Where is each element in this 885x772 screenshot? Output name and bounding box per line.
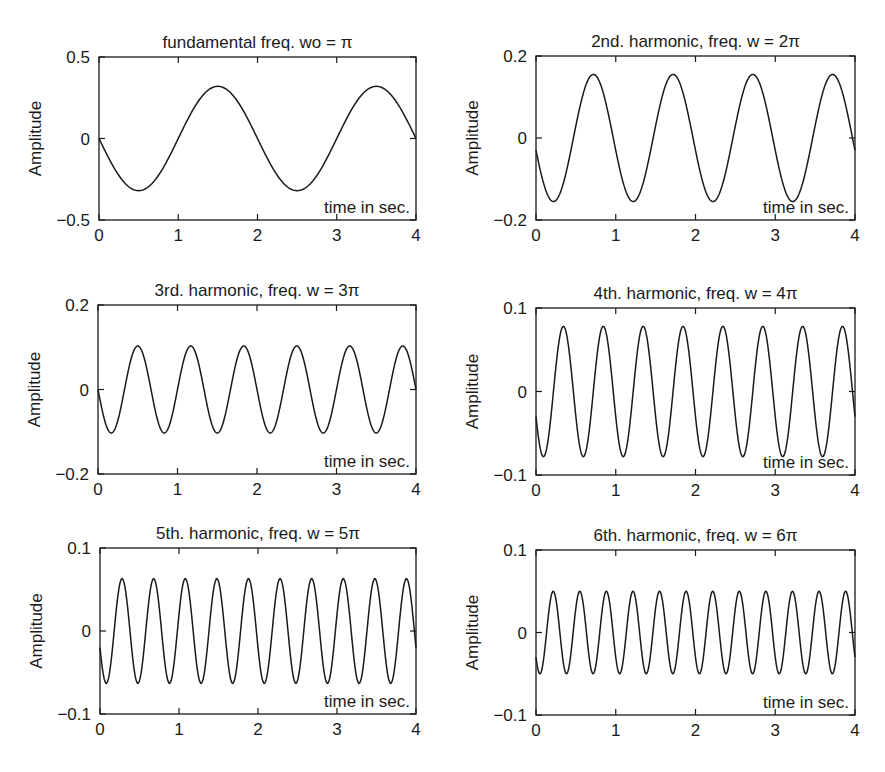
x-tick-label: 2 bbox=[253, 226, 262, 245]
y-tick-label: 0 bbox=[82, 622, 91, 641]
x-axis-label: time in sec. bbox=[324, 198, 410, 217]
x-tick-label: 4 bbox=[850, 226, 859, 245]
subplot-3: 3rd. harmonic, freq. w = 3πAmplitude0123… bbox=[25, 281, 421, 499]
x-tick-label: 0 bbox=[94, 226, 103, 245]
x-axis-label: time in sec. bbox=[763, 693, 849, 712]
axes-box bbox=[536, 550, 855, 715]
y-tick-label: 0.2 bbox=[65, 296, 89, 315]
figure-canvas: fundamental freq. wo = πAmplitude01234−0… bbox=[0, 0, 885, 772]
x-tick-label: 3 bbox=[771, 721, 780, 740]
subplot-6: 6th. harmonic, freq. w = 6πAmplitude0123… bbox=[463, 526, 860, 740]
subplot-1: fundamental freq. wo = πAmplitude01234−0… bbox=[26, 33, 421, 245]
y-tick-label: −0.5 bbox=[56, 211, 90, 230]
axes-box bbox=[100, 548, 416, 714]
y-tick-label: 0.1 bbox=[503, 299, 527, 318]
x-tick-label: 3 bbox=[332, 226, 341, 245]
x-tick-label: 4 bbox=[411, 720, 420, 739]
y-axis-label: Amplitude bbox=[27, 593, 46, 669]
subplot-title: fundamental freq. wo = π bbox=[163, 33, 353, 52]
x-tick-label: 4 bbox=[411, 226, 420, 245]
y-tick-label: 0.2 bbox=[503, 47, 527, 66]
y-axis-label: Amplitude bbox=[463, 595, 482, 671]
axes-box bbox=[536, 56, 855, 220]
x-tick-label: 0 bbox=[95, 720, 104, 739]
x-tick-label: 0 bbox=[531, 481, 540, 500]
x-tick-label: 4 bbox=[850, 481, 859, 500]
x-axis-label: time in sec. bbox=[763, 198, 849, 217]
x-tick-label: 3 bbox=[771, 481, 780, 500]
x-tick-label: 4 bbox=[411, 480, 420, 499]
harmonics-figure: fundamental freq. wo = πAmplitude01234−0… bbox=[0, 0, 885, 772]
waveform-line bbox=[100, 579, 416, 684]
x-tick-label: 3 bbox=[332, 480, 341, 499]
subplot-5: 5th. harmonic, freq. w = 5πAmplitude0123… bbox=[27, 524, 421, 739]
y-axis-label: Amplitude bbox=[26, 101, 45, 177]
subplot-title: 5th. harmonic, freq. w = 5π bbox=[156, 524, 360, 543]
subplot-title: 6th. harmonic, freq. w = 6π bbox=[593, 526, 797, 545]
x-tick-label: 3 bbox=[332, 720, 341, 739]
y-tick-label: 0.1 bbox=[67, 539, 91, 558]
x-tick-label: 0 bbox=[93, 480, 102, 499]
waveform-line bbox=[98, 346, 416, 433]
subplot-title: 3rd. harmonic, freq. w = 3π bbox=[155, 281, 360, 300]
y-tick-label: −0.1 bbox=[493, 706, 527, 725]
x-tick-label: 2 bbox=[691, 226, 700, 245]
y-tick-label: 0 bbox=[518, 383, 527, 402]
x-tick-label: 4 bbox=[850, 721, 859, 740]
x-tick-label: 0 bbox=[531, 721, 540, 740]
waveform-line bbox=[536, 326, 855, 456]
axes-box bbox=[536, 308, 855, 475]
x-tick-label: 0 bbox=[531, 226, 540, 245]
x-tick-label: 1 bbox=[611, 721, 620, 740]
subplot-title: 4th. harmonic, freq. w = 4π bbox=[593, 284, 797, 303]
y-tick-label: 0.1 bbox=[503, 541, 527, 560]
y-tick-label: 0 bbox=[80, 381, 89, 400]
waveform-line bbox=[99, 86, 416, 190]
y-tick-label: 0 bbox=[518, 129, 527, 148]
y-axis-label: Amplitude bbox=[25, 352, 44, 428]
y-axis-label: Amplitude bbox=[463, 100, 482, 176]
waveform-line bbox=[536, 74, 855, 201]
subplot-2: 2nd. harmonic, freq. w = 2πAmplitude0123… bbox=[463, 32, 860, 245]
x-tick-label: 1 bbox=[174, 720, 183, 739]
y-tick-label: −0.1 bbox=[57, 705, 91, 724]
y-tick-label: −0.1 bbox=[493, 466, 527, 485]
x-tick-label: 2 bbox=[253, 720, 262, 739]
y-tick-label: 0 bbox=[81, 130, 90, 149]
x-tick-label: 1 bbox=[174, 226, 183, 245]
x-tick-label: 1 bbox=[173, 480, 182, 499]
y-tick-label: 0.5 bbox=[66, 48, 90, 67]
subplot-4: 4th. harmonic, freq. w = 4πAmplitude0123… bbox=[463, 284, 860, 500]
x-tick-label: 3 bbox=[771, 226, 780, 245]
y-tick-label: −0.2 bbox=[55, 465, 89, 484]
x-tick-label: 2 bbox=[691, 721, 700, 740]
y-axis-label: Amplitude bbox=[463, 354, 482, 430]
x-tick-label: 1 bbox=[611, 226, 620, 245]
waveform-line bbox=[536, 591, 855, 673]
y-tick-label: 0 bbox=[518, 624, 527, 643]
x-tick-label: 1 bbox=[611, 481, 620, 500]
y-tick-label: −0.2 bbox=[493, 211, 527, 230]
subplot-title: 2nd. harmonic, freq. w = 2π bbox=[591, 32, 800, 51]
x-tick-label: 2 bbox=[691, 481, 700, 500]
x-axis-label: time in sec. bbox=[763, 453, 849, 472]
x-axis-label: time in sec. bbox=[324, 692, 410, 711]
x-axis-label: time in sec. bbox=[324, 452, 410, 471]
x-tick-label: 2 bbox=[252, 480, 261, 499]
